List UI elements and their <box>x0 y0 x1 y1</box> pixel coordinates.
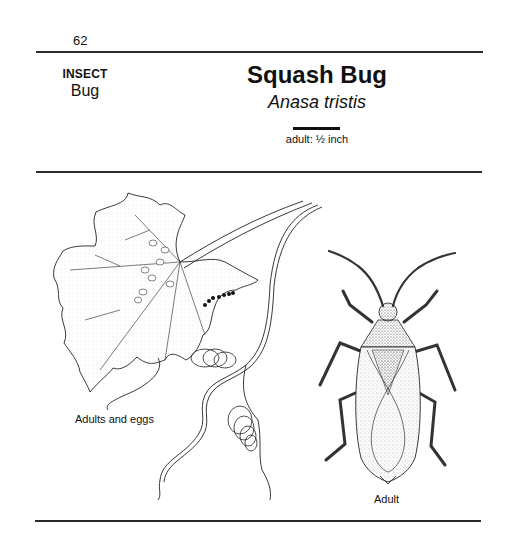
caption-adult: Adult <box>374 493 399 505</box>
bug-body <box>356 303 421 484</box>
adult-bug-illustration <box>0 0 505 535</box>
footer-rule <box>35 520 481 522</box>
